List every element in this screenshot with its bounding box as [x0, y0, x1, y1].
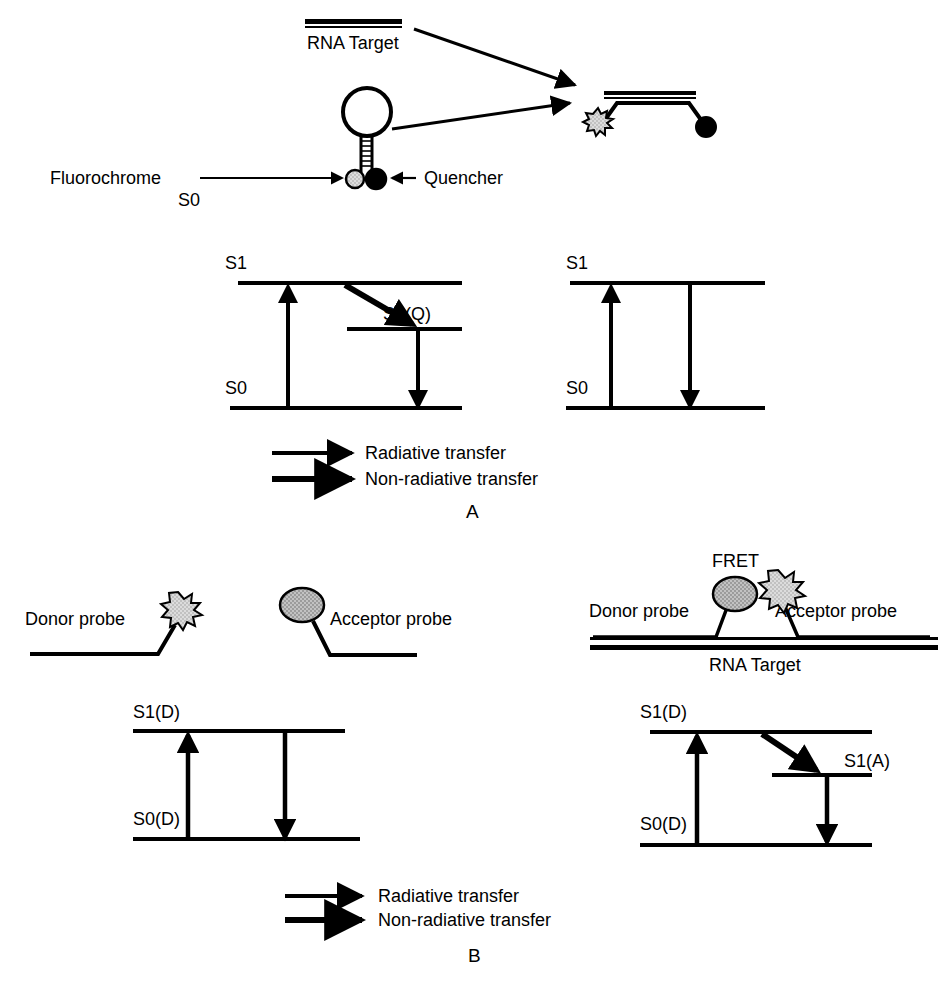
panel-a-schematic: RNA Target: [50, 19, 716, 210]
panel-b-legend: Radiative transfer Non-radiative transfe…: [285, 886, 551, 966]
rna-target-label-b: RNA Target: [709, 655, 801, 675]
acceptor-probe-label-b-left: Acceptor probe: [330, 609, 452, 629]
panel-letter-a: A: [466, 501, 479, 522]
fluorochrome-label: Fluorochrome: [50, 168, 161, 188]
legend-label-nonradiative-a: Non-radiative transfer: [365, 469, 538, 489]
hybridized-duplex: [583, 91, 716, 137]
panel-a-energy-diagram-right: S1 S0: [566, 253, 765, 408]
quencher-dot-icon: [696, 117, 716, 137]
panel-b-schematic-right: FRET Donor probe Acceptor probe RNA Targ…: [589, 551, 938, 675]
panel-b-schematic-left: Donor probe Acceptor probe: [25, 588, 452, 655]
arrow-nonradiative-b-right: [762, 734, 816, 770]
legend-label-nonradiative-b: Non-radiative transfer: [378, 910, 551, 930]
level-label-s1-a-left: S1: [225, 253, 247, 273]
fret-label: FRET: [712, 551, 759, 571]
panel-letter-b: B: [468, 945, 481, 966]
beacon-stem-rungs: [361, 141, 372, 166]
panel-b-energy-diagram-left: S1(D) S0(D): [133, 702, 360, 839]
level-label-s0-a-right: S0: [566, 378, 588, 398]
level-label-s1d-b-right: S1(D): [640, 702, 687, 722]
arrow-beacon-to-duplex: [392, 103, 570, 129]
donor-fluorochrome-burst-icon-b-left: [161, 592, 202, 630]
quencher-label: Quencher: [424, 168, 503, 188]
donor-ellipse-icon-b-right: [713, 577, 757, 611]
arrow-target-to-duplex: [414, 29, 575, 85]
rna-target-label-a: RNA Target: [307, 33, 399, 53]
donor-probe-strand-b-left: [30, 625, 175, 654]
fluorochrome-ground-state-label: S0: [178, 190, 200, 210]
level-label-s1-a-right: S1: [566, 253, 588, 273]
level-label-s0d-b-left: S0(D): [133, 809, 180, 829]
rna-target-bar: [305, 19, 402, 28]
level-label-s1d-b-left: S1(D): [133, 702, 180, 722]
acceptor-ellipse-icon-b-left: [280, 588, 324, 622]
level-label-s1a-b-right: S1(A): [844, 751, 890, 771]
donor-probe-label-b-right: Donor probe: [589, 601, 689, 621]
rna-target-duplex-b: [590, 637, 938, 650]
panel-b-energy-diagram-right: S1(D) S0(D) S1(A): [640, 702, 890, 845]
figure-root: RNA Target: [0, 0, 948, 990]
level-label-s0d-b-right: S0(D): [640, 814, 687, 834]
panel-a-legend: Radiative transfer Non-radiative transfe…: [272, 443, 538, 522]
fluorochrome-marker: [346, 170, 364, 188]
scientific-figure: RNA Target: [0, 0, 948, 990]
opened-probe-strand: [602, 103, 704, 124]
quencher-marker: [366, 169, 386, 189]
legend-label-radiative-b: Radiative transfer: [378, 886, 519, 906]
molecular-beacon: [343, 88, 391, 189]
donor-probe-label-b-left: Donor probe: [25, 609, 125, 629]
beacon-loop: [343, 88, 391, 136]
panel-a-energy-diagram-left: S1 S0 S1(Q): [225, 253, 462, 408]
legend-label-radiative-a: Radiative transfer: [365, 443, 506, 463]
level-label-s0-a-left: S0: [225, 378, 247, 398]
